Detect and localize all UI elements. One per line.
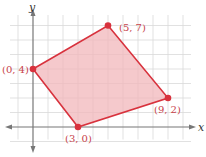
y-axis-arrow-down-icon: [31, 146, 36, 153]
coordinate-plane: x y (0, 4) (5, 7) (9, 2) (3, 0): [0, 0, 206, 157]
vertex-point: [105, 22, 112, 29]
vertex-point: [165, 95, 172, 102]
quadrilateral-region: [33, 26, 168, 128]
point-label-5-7: (5, 7): [119, 22, 146, 33]
x-axis-label: x: [198, 121, 205, 134]
y-axis: [31, 9, 36, 153]
x-axis: [5, 125, 196, 130]
vertex-point: [30, 66, 37, 73]
y-axis-label: y: [28, 1, 36, 14]
point-label-9-2: (9, 2): [154, 104, 181, 115]
x-axis-arrow-right-icon: [189, 125, 196, 130]
point-label-3-0: (3, 0): [65, 133, 92, 144]
vertex-point: [75, 124, 82, 131]
point-label-0-4: (0, 4): [2, 64, 29, 75]
x-axis-arrow-left-icon: [5, 125, 12, 130]
